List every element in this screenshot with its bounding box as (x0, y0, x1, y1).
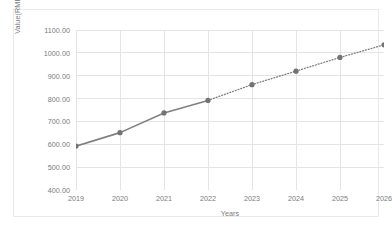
x-axis-tick-label: 2020 (112, 194, 128, 203)
plot-area (76, 30, 384, 190)
series-lines (76, 45, 384, 146)
y-axis-tick-label: 700.00 (48, 117, 70, 126)
y-axis-tick-label: 1100.00 (44, 26, 70, 35)
y-axis-title: Value(RMB Billion) (13, 0, 22, 63)
y-axis-tick-label: 800.00 (48, 94, 70, 103)
x-axis-tick-label: 2023 (244, 194, 260, 203)
data-point-marker (249, 82, 254, 87)
chart-svg (76, 30, 384, 190)
x-axis-tick-label: 2026 (376, 194, 392, 203)
grid-lines (76, 30, 384, 190)
data-point-marker (293, 69, 298, 74)
x-axis-tick-label: 2021 (156, 194, 172, 203)
x-axis-tick-labels: 20192020202120222023202420252026 (76, 194, 384, 208)
data-point-marker (205, 98, 210, 103)
y-axis-tick-label: 400.00 (48, 186, 70, 195)
y-axis-tick-labels: 400.00500.00600.00700.00800.00900.001000… (14, 30, 74, 190)
data-point-marker (337, 55, 342, 60)
x-axis-tick-label: 2025 (332, 194, 348, 203)
y-axis-tick-label: 1000.00 (44, 48, 70, 57)
line-chart: 400.00500.00600.00700.00800.00900.001000… (0, 0, 392, 228)
x-axis-title: Years (76, 209, 384, 218)
y-axis-tick-label: 500.00 (48, 163, 70, 172)
y-axis-tick-label: 600.00 (48, 140, 70, 149)
data-point-marker (381, 42, 384, 47)
chart-frame: 400.00500.00600.00700.00800.00900.001000… (13, 9, 379, 217)
series-markers (76, 42, 384, 148)
series-line-actual (76, 100, 208, 146)
data-point-marker (117, 130, 122, 135)
x-axis-tick-label: 2024 (288, 194, 304, 203)
y-axis-tick-label: 900.00 (48, 71, 70, 80)
x-axis-tick-label: 2019 (68, 194, 84, 203)
data-point-marker (161, 110, 166, 115)
x-axis-tick-label: 2022 (200, 194, 216, 203)
